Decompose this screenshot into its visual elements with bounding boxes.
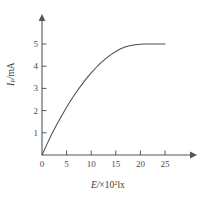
y-tick-label-2: 2 (27, 106, 38, 115)
y-tick-label-1: 1 (27, 128, 38, 137)
x-axis-title: E/×102lx (91, 178, 125, 190)
x-axis-unit: lx (117, 180, 124, 190)
x-axis-ticks (67, 151, 165, 156)
x-tick-label-20: 20 (136, 160, 145, 169)
y-axis-arrowhead (39, 14, 46, 21)
y-axis-symbol: I (6, 83, 16, 86)
x-tick-label-15: 15 (111, 160, 120, 169)
y-axis-title: IP/mA (6, 62, 18, 86)
plot-area (0, 0, 213, 200)
y-axis-subscript: P (9, 79, 16, 83)
y-axis-unit: mA (6, 62, 16, 76)
y-tick-label-4: 4 (27, 62, 38, 71)
chart-figure: 0 5 10 15 20 25 1 2 3 4 5 E/×102lx IP/mA (0, 0, 213, 200)
x-tick-label-25: 25 (161, 160, 170, 169)
y-tick-label-3: 3 (27, 84, 38, 93)
y-tick-label-5: 5 (27, 40, 38, 49)
x-axis-base: 10 (105, 180, 115, 190)
y-axis-ticks (42, 44, 47, 133)
photocurrent-curve (42, 44, 165, 155)
x-tick-label-5: 5 (64, 160, 69, 169)
x-tick-label-10: 10 (87, 160, 96, 169)
x-tick-label-0: 0 (40, 160, 45, 169)
x-axis-arrowhead (190, 152, 197, 159)
